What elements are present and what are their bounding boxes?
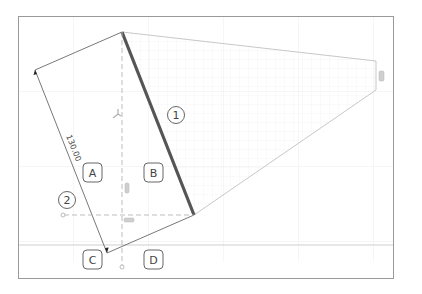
svg-text:1: 1 [173,109,180,122]
region-label-c: C [83,250,102,269]
svg-text:A: A [89,167,97,180]
constraint-handle-vertical[interactable] [125,183,129,193]
svg-text:C: C [89,254,97,267]
diagram: 130.00 1 2 A B C D [0,0,422,294]
svg-text:D: D [149,254,157,267]
callout-2: 2 [59,192,76,209]
region-label-d: D [144,250,163,269]
region-label-b: B [144,163,163,182]
constraint-handle-horizontal[interactable] [124,218,134,222]
constraint-handle-right[interactable] [379,71,384,81]
callout-1: 1 [168,107,185,124]
svg-text:2: 2 [64,194,71,207]
region-label-a: A [83,163,102,182]
construction-endpoint-left[interactable] [61,213,65,217]
svg-text:B: B [150,167,158,180]
construction-endpoint-bottom[interactable] [120,265,124,269]
